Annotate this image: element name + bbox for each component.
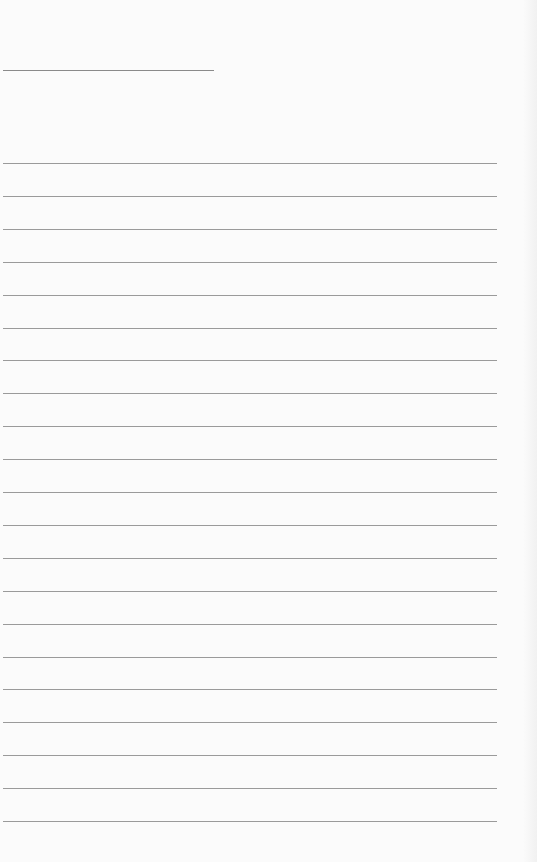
- ruled-line: [3, 393, 497, 394]
- ruled-line: [3, 459, 497, 460]
- page-edge-shadow: [523, 0, 537, 862]
- ruled-line: [3, 426, 497, 427]
- ruled-line: [3, 196, 497, 197]
- ruled-line: [3, 525, 497, 526]
- ruled-line: [3, 624, 497, 625]
- ruled-line: [3, 821, 497, 822]
- ruled-line: [3, 755, 497, 756]
- ruled-line: [3, 788, 497, 789]
- ruled-line: [3, 657, 497, 658]
- ruled-line: [3, 722, 497, 723]
- ruled-line: [3, 360, 497, 361]
- ruled-line: [3, 492, 497, 493]
- ruled-line: [3, 591, 497, 592]
- ruled-line: [3, 295, 497, 296]
- name-line: [3, 70, 214, 71]
- ruled-line: [3, 558, 497, 559]
- ruled-line: [3, 229, 497, 230]
- ruled-line: [3, 328, 497, 329]
- ruled-line: [3, 689, 497, 690]
- ruled-line: [3, 163, 497, 164]
- ruled-line: [3, 262, 497, 263]
